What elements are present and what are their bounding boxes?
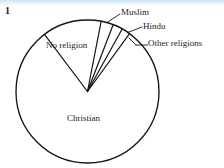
slice-label-other-religions: Other religions [148, 39, 202, 48]
leader-line-hindu [128, 27, 143, 33]
slice-boundary-no-religion-end [88, 21, 102, 91]
leader-line-muslim [107, 14, 120, 23]
slice-label-christian: Christian [67, 114, 100, 123]
figure-canvas: 1 Muslim Hindu Other religions No religi… [0, 0, 224, 168]
slice-boundary-other-end [88, 34, 130, 92]
leader-line-other-hook [129, 38, 136, 45]
pie-chart-graphic [0, 0, 224, 168]
slice-boundary-muslim-end [88, 25, 114, 92]
slice-boundary-hindu-end [88, 29, 123, 92]
slice-label-no-religion: No religion [46, 41, 87, 50]
slice-label-hindu: Hindu [143, 22, 166, 31]
slice-label-muslim: Muslim [121, 8, 149, 17]
